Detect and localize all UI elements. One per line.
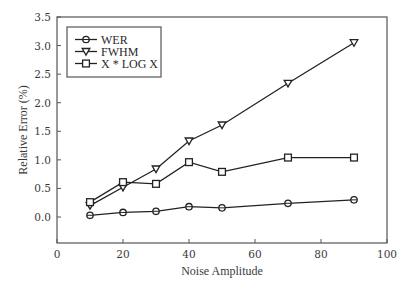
series-line bbox=[90, 158, 354, 203]
x-tick-label: 80 bbox=[314, 248, 327, 260]
y-tick-label: 3.0 bbox=[34, 40, 51, 52]
y-tick-label: 0.0 bbox=[34, 211, 51, 223]
square-marker-icon bbox=[120, 179, 127, 186]
y-axis-label: Relative Error (%) bbox=[16, 85, 30, 174]
square-marker-icon bbox=[83, 60, 90, 67]
x-tick-label: 40 bbox=[182, 248, 195, 260]
triangle-down-marker-icon bbox=[350, 40, 358, 47]
y-tick-label: 0.5 bbox=[34, 182, 51, 194]
x-tick-label: 60 bbox=[248, 248, 261, 260]
square-marker-icon bbox=[186, 159, 193, 166]
square-marker-icon bbox=[351, 154, 358, 161]
line-chart: 020406080100 0.00.51.01.52.02.53.03.5 No… bbox=[0, 0, 414, 290]
y-tick-label: 1.0 bbox=[34, 154, 51, 166]
square-marker-icon bbox=[87, 199, 94, 206]
series-markers bbox=[87, 197, 357, 219]
legend: WERFWHMX * LOG X bbox=[67, 27, 161, 77]
series-markers bbox=[87, 154, 358, 205]
triangle-down-marker-icon bbox=[152, 166, 160, 173]
triangle-down-marker-icon bbox=[284, 80, 292, 87]
triangle-down-marker-icon bbox=[218, 122, 226, 129]
square-marker-icon bbox=[153, 180, 160, 187]
square-marker-icon bbox=[219, 168, 226, 175]
y-tick-label: 2.0 bbox=[34, 97, 51, 109]
x-tick-label: 0 bbox=[54, 248, 61, 260]
x-tick-label: 100 bbox=[377, 248, 397, 260]
x-axis-label: Noise Amplitude bbox=[181, 264, 263, 278]
square-marker-icon bbox=[285, 154, 292, 161]
series-x-log-x bbox=[90, 158, 354, 203]
legend-label: X * LOG X bbox=[101, 57, 158, 71]
x-tick-label: 20 bbox=[116, 248, 129, 260]
x-axis: 020406080100 bbox=[54, 239, 397, 260]
y-tick-label: 3.5 bbox=[34, 11, 51, 23]
y-tick-label: 2.5 bbox=[34, 68, 51, 80]
y-tick-label: 1.5 bbox=[34, 125, 51, 137]
